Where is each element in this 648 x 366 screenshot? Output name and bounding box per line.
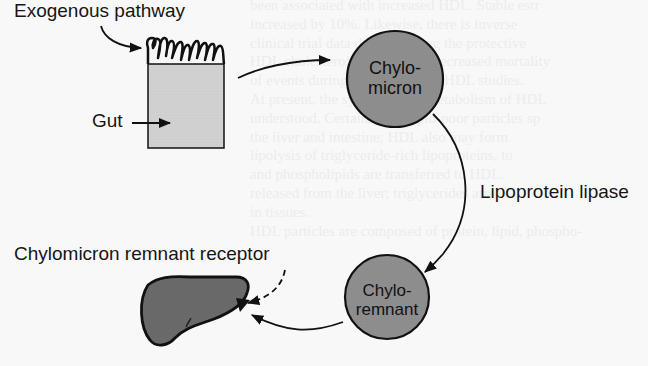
remnant-to-liver-arrow: [252, 315, 343, 330]
lipolysis-arrow: [425, 114, 465, 272]
gut-label: Gut: [92, 110, 123, 132]
exogenous-arrow: [101, 26, 141, 48]
liver-icon: [141, 277, 250, 345]
remnant-line1: Chylo-: [350, 281, 424, 300]
chylomicron-line1: Chylo-: [352, 58, 438, 78]
gut-to-chylomicron-arrow: [238, 60, 330, 78]
remnant-line2: remnant: [350, 300, 424, 319]
receptor-dashed-arrow: [248, 270, 285, 303]
microvilli-border: [147, 38, 224, 64]
remnant-node-label: Chylo- remnant: [350, 281, 424, 319]
exogenous-pathway-label: Exogenous pathway: [14, 0, 185, 22]
chylomicron-node-label: Chylo- micron: [352, 58, 438, 98]
diagram-canvas: been associated with increased HDL. Stab…: [0, 0, 648, 366]
gut-cell-icon: [147, 38, 224, 148]
chylomicron-line2: micron: [352, 78, 438, 98]
lipoprotein-lipase-label: Lipoprotein lipase: [480, 181, 629, 203]
remnant-receptor-label: Chylomicron remnant receptor: [14, 243, 270, 265]
